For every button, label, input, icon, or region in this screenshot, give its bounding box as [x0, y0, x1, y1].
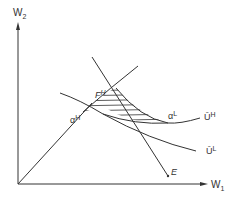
axes: [16, 22, 208, 186]
point-e: [167, 175, 169, 177]
indifference-curve-u-h-lower: [116, 88, 200, 123]
hatch-lower-boundary: [103, 114, 168, 123]
label-u-h: ŪH: [204, 111, 216, 122]
label-alpha-l: αL: [168, 110, 177, 121]
ray-from-origin: [18, 103, 92, 184]
y-axis-label: W2: [13, 7, 26, 20]
y-axis-arrow-icon: [16, 22, 20, 30]
x-axis-label: W1: [211, 179, 224, 192]
x-axis-arrow-icon: [200, 182, 208, 186]
label-alpha-h: αH: [70, 114, 80, 125]
label-e: E: [171, 167, 178, 177]
label-u-l: ŪL: [206, 145, 217, 156]
line-fh-to-e: [92, 57, 168, 176]
wage-indifference-diagram: W2 W1 αH αL FH E ŪH ŪL: [0, 0, 244, 201]
label-f-h: FH: [95, 89, 107, 100]
